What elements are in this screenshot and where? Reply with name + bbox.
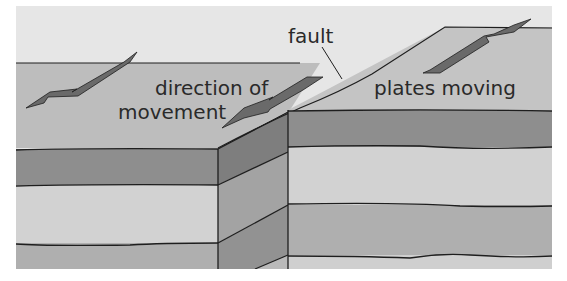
- plates-moving-label: plates moving: [374, 76, 516, 100]
- fault-label: fault: [288, 24, 334, 48]
- direction-label-line1: direction of: [155, 76, 269, 100]
- left-layer-light: [16, 185, 218, 243]
- left-layer-dark: [16, 149, 218, 185]
- right-layer-light: [288, 147, 552, 205]
- right-layer-mid: [288, 205, 552, 255]
- right-layer-dark: [288, 111, 552, 147]
- left-layer-mid: [16, 243, 218, 269]
- direction-label-line2: movement: [118, 100, 226, 124]
- transform-fault-diagram: fault direction of movement plates movin…: [0, 0, 567, 281]
- bottom-margin: [0, 269, 567, 281]
